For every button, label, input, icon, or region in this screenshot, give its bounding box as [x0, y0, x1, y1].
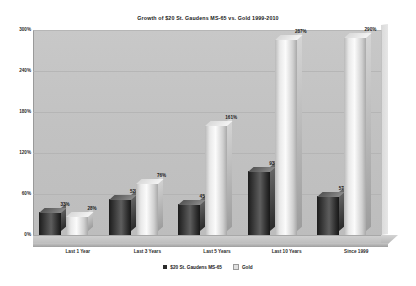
bar-group: 33%28%	[39, 30, 109, 235]
bar-front-face	[66, 216, 88, 235]
x-axis-label-1: Last 1 Year	[43, 249, 113, 254]
x-axis-label-3: Last 5 Years	[182, 249, 252, 254]
bar-front-face	[248, 171, 270, 235]
legend-label: $20 St. Gaudens MS-65	[170, 265, 222, 270]
chart-legend: $20 St. Gaudens MS-65Gold	[0, 264, 416, 270]
bar-chart: Growth of $20 St. Gaudens MS-65 vs. Gold…	[0, 0, 416, 286]
bar-coin[interactable]	[317, 196, 339, 235]
y-axis-tick-label: 240%	[1, 68, 31, 73]
y-axis-tick-label: 120%	[1, 150, 31, 155]
bar-front-face	[344, 37, 366, 235]
x-axis-label-5: Since 1999	[321, 249, 391, 254]
x-axis-label-4: Last 10 Years	[252, 249, 322, 254]
legend-label: Gold	[242, 265, 253, 270]
y-axis-tick-label: 300%	[1, 27, 31, 32]
bar-value-label: 76%	[147, 173, 177, 178]
bar-gold[interactable]	[275, 39, 297, 235]
bar-front-face	[109, 199, 131, 235]
bar-front-face	[317, 196, 339, 235]
legend-swatch-icon	[233, 264, 239, 270]
bar-gold[interactable]	[136, 183, 158, 235]
bar-coin[interactable]	[39, 212, 61, 235]
legend-swatch-icon	[163, 265, 167, 269]
x-axis-category-labels: Last 1 YearLast 3 YearsLast 5 YearsLast …	[33, 249, 388, 261]
bar-coin[interactable]	[248, 171, 270, 235]
bar-value-label: 287%	[286, 29, 316, 34]
bar-side-face	[366, 29, 371, 231]
bar-side-face	[297, 31, 302, 231]
y-axis-tick-label: 60%	[1, 191, 31, 196]
bar-side-face	[227, 117, 232, 231]
bar-value-label: 161%	[216, 115, 246, 120]
bar-front-face	[178, 204, 200, 235]
bar-front-face	[136, 183, 158, 235]
bar-gold[interactable]	[66, 216, 88, 235]
x-axis-label-2: Last 3 Years	[112, 249, 182, 254]
bar-front-face	[275, 39, 297, 235]
bar-front-face	[39, 212, 61, 235]
bar-group: 57%290%	[317, 30, 387, 235]
bar-value-label: 290%	[355, 27, 385, 32]
bar-value-label: 28%	[77, 206, 107, 211]
legend-item[interactable]: Gold	[233, 264, 253, 270]
bar-group: 45%161%	[178, 30, 248, 235]
bars-layer: 33%28%52%76%45%161%93%287%57%290%	[33, 30, 381, 235]
bar-front-face	[205, 125, 227, 235]
bar-gold[interactable]	[344, 37, 366, 235]
bar-group: 93%287%	[248, 30, 318, 235]
y-axis-tick-label: 180%	[1, 109, 31, 114]
bar-value-label: 33%	[50, 202, 80, 207]
chart-title: Growth of $20 St. Gaudens MS-65 vs. Gold…	[0, 15, 416, 21]
bar-group: 52%76%	[109, 30, 179, 235]
bar-coin[interactable]	[109, 199, 131, 235]
plot-floor-front	[33, 243, 388, 247]
y-axis-ticks: 300%240%180%120%60%0%	[0, 0, 31, 286]
legend-item[interactable]: $20 St. Gaudens MS-65	[163, 265, 222, 270]
bar-gold[interactable]	[205, 125, 227, 235]
bar-coin[interactable]	[178, 204, 200, 235]
y-axis-tick-label: 0%	[1, 232, 31, 237]
